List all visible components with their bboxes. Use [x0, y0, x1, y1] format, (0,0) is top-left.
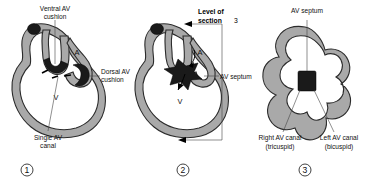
av-septum-panel-3 — [298, 71, 316, 91]
panel-number-2: 2 — [181, 165, 186, 175]
level-of-section-label-line1: Level of — [198, 8, 224, 15]
leader-single-av-canal — [48, 77, 58, 131]
atrium-label-panel-1: A — [75, 48, 80, 57]
right-av-canal-label-line1: Right AV canal — [259, 134, 302, 142]
ventral-cushion-remnant-panel-2 — [151, 24, 164, 35]
figure-canvas: A V Ventral AV cushion Dorsal AV cushion… — [0, 0, 372, 187]
panel-3: AV septum Right AV canal (tricuspid) Lef… — [246, 0, 372, 187]
left-av-canal-label-line2: (bicuspid) — [325, 143, 354, 151]
left-av-canal-label-line1: Left AV canal — [320, 134, 359, 141]
atrium-label-panel-2: A — [198, 48, 203, 57]
panel-number-3: 3 — [303, 165, 308, 175]
ventral-av-cushion-label-line1: Ventral AV — [40, 5, 71, 12]
level-of-section-number: 3 — [234, 17, 238, 24]
panel-2: A V Level of section 3 AV septum 2 — [118, 0, 250, 187]
ventral-av-cushion-label-line2: cushion — [44, 13, 67, 20]
level-arrow-top — [184, 21, 192, 27]
panel-1: A V Ventral AV cushion Dorsal AV cushion… — [0, 0, 124, 187]
ventral-av-cushion-superior-blob — [28, 24, 41, 35]
panel-3-diagram: AV septum Right AV canal (tricuspid) Lef… — [246, 0, 372, 187]
level-of-section-label-line2: section — [198, 17, 222, 24]
single-av-canal-label-line2: canal — [40, 142, 56, 149]
ventricle-label-panel-2: V — [178, 97, 183, 106]
panel-2-diagram: A V Level of section 3 AV septum 2 — [118, 0, 250, 187]
single-av-canal-label-line1: Single AV — [34, 134, 63, 142]
av-septum-label-panel-3: AV septum — [291, 7, 323, 15]
right-av-canal-label-line2: (tricuspid) — [266, 143, 295, 151]
panel-1-diagram: A V Ventral AV cushion Dorsal AV cushion… — [0, 0, 124, 187]
panel-number-1: 1 — [25, 165, 30, 175]
